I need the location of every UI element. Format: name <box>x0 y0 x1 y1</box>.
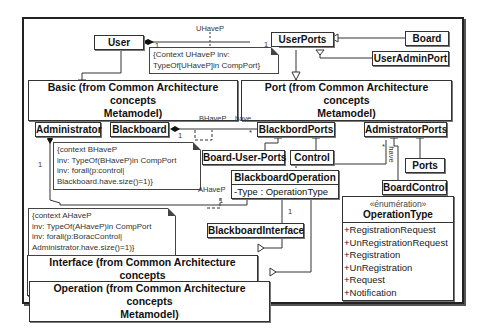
package-port-line1: Port (from Common Architecture concepts <box>242 81 451 107</box>
note-uhavep-line: TypeOf[UHaveP]in CompPort} <box>153 61 275 72</box>
enum-literal: +Request <box>343 273 453 286</box>
class-blackboard-operation-name: BlackboardOperation <box>232 171 338 184</box>
note-ahavep-line: inv: forall(p:BoracControl| <box>32 232 172 243</box>
class-blackboard-operation-attr: -Type : OperationType <box>232 184 338 198</box>
label-mult-1e: 1 <box>219 196 223 205</box>
label-uhavep: UHaveP <box>196 24 224 33</box>
class-board-user-ports[interactable]: Board-User-Ports <box>202 150 285 165</box>
label-mult-star-a: * <box>249 128 252 137</box>
label-mult-1c: 1 <box>178 131 182 140</box>
label-mult-star-b: * <box>382 142 385 151</box>
enum-literal: +UnRegistration <box>343 261 453 274</box>
note-ahavep-line: {context AHaveP <box>32 211 172 222</box>
class-user[interactable]: User <box>94 35 144 50</box>
note-fold-icon <box>271 47 279 55</box>
class-board[interactable]: Board <box>405 31 449 46</box>
label-ahavep: AHaveP <box>198 185 226 194</box>
package-operation-line1: Operation (from Common Architecture conc… <box>30 282 269 308</box>
enum-literal: +RegistrationRequest <box>343 223 453 236</box>
enum-literal: +Registration <box>343 248 453 261</box>
enum-header: «énumération» OperationType <box>343 197 453 223</box>
package-basic-line1: Basic (from Common Architecture concepts <box>29 81 237 107</box>
label-have-2: have <box>387 146 396 162</box>
note-ahavep-line: inv: TypeOf(AHaveP)in CompPort <box>32 222 172 233</box>
class-blackboard-operation[interactable]: BlackboardOperation -Type : OperationTyp… <box>231 170 339 199</box>
enum-literal: +UnRegistrationRequest <box>343 236 453 249</box>
enum-name: OperationType <box>343 209 453 220</box>
note-ahavep: {context AHaveP inv: TypeOf(AHaveP)in Co… <box>28 208 176 256</box>
label-have-1: have <box>235 114 251 123</box>
class-admistrator-ports[interactable]: AdmistratorPorts <box>364 122 447 137</box>
label-mult-1a: 1 <box>155 41 159 50</box>
class-user-ports[interactable]: UserPorts <box>271 32 334 47</box>
note-bhavep-line: inv: forall(p:control| <box>57 166 197 177</box>
class-user-admin-port[interactable]: UserAdminPort <box>372 51 449 66</box>
label-mult-1f: 1 <box>288 207 292 216</box>
class-board-control[interactable]: BoardControl <box>382 180 447 195</box>
note-fold-icon <box>193 142 201 150</box>
note-bhavep-line: inv: TypeOf(BHaveP)in CompPort <box>57 156 197 167</box>
package-port[interactable]: Port (from Common Architecture concepts … <box>241 80 452 121</box>
note-uhavep: {Context UHaveP inv: TypeOf[UHaveP]in Co… <box>149 47 279 74</box>
package-operation-line2: Metamodel) <box>30 308 269 321</box>
package-port-line2: Metamodel) <box>242 107 451 120</box>
class-control[interactable]: Control <box>290 150 334 165</box>
note-bhavep-line: Blackboard.have.size()=1)} <box>57 177 197 188</box>
label-mult-1b: 1 <box>264 40 268 49</box>
class-blackboard-interface[interactable]: BlackboardInterface <box>207 223 304 238</box>
label-bhavep: BHaveP <box>199 114 227 123</box>
note-bhavep-line: {context BHaveP <box>57 145 197 156</box>
note-bhavep: {context BHaveP inv: TypeOf(BHaveP)in Co… <box>53 142 201 190</box>
enum-stereotype: «énumération» <box>343 199 453 209</box>
class-ports[interactable]: Ports <box>405 158 445 173</box>
label-mult-1d: 1 <box>38 160 42 169</box>
note-uhavep-line: {Context UHaveP inv: <box>153 50 275 61</box>
class-blackbord-ports[interactable]: BlackbordPorts <box>257 122 335 137</box>
package-operation[interactable]: Operation (from Common Architecture conc… <box>29 281 270 322</box>
class-blackboard[interactable]: Blackboard <box>110 122 169 137</box>
enum-literal: +Notification <box>343 286 453 301</box>
enum-operation-type[interactable]: «énumération» OperationType +Registratio… <box>342 196 454 301</box>
class-administrator[interactable]: Administrator <box>35 122 101 137</box>
note-fold-icon <box>168 208 176 216</box>
package-interface-line1: Interface (from Common Architecture conc… <box>28 256 257 282</box>
note-ahavep-line: Administrator.have.size()=1)} <box>32 243 172 254</box>
